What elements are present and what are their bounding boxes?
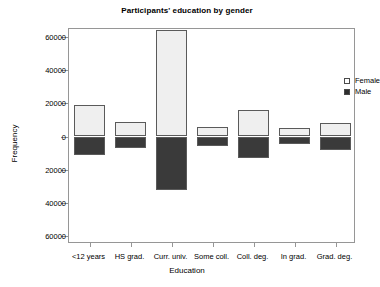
x-axis-tick-label: Coll. deg. (237, 252, 269, 261)
y-axis-tick-label: 60000 (45, 33, 66, 42)
x-axis-tick-label: Some coll. (194, 252, 229, 261)
y-axis-title: Frequency (5, 0, 25, 287)
x-axis-tick-mark (336, 242, 337, 247)
bar-male (74, 137, 105, 156)
bar-female (197, 127, 228, 136)
y-axis-tick-label: 0 (62, 132, 66, 141)
x-axis-tick-label: In grad. (281, 252, 306, 261)
x-axis-tick-mark (295, 242, 296, 247)
x-axis-tick-mark (172, 242, 173, 247)
bar-female (156, 30, 187, 137)
bar-male (238, 137, 269, 158)
bar-male (320, 137, 351, 150)
legend-label-male: Male (355, 86, 371, 97)
bar-female (320, 123, 351, 137)
legend-item-female: Female (344, 75, 380, 86)
x-axis-tick-mark (254, 242, 255, 247)
bar-female (115, 122, 146, 137)
y-axis-tick-label: 40000 (45, 198, 66, 207)
bar-male (279, 137, 310, 145)
chart-legend: Female Male (344, 75, 380, 97)
bar-female (74, 105, 105, 136)
bar-male (115, 137, 146, 148)
x-axis-tick-label: Grad. deg. (317, 252, 352, 261)
open-square-icon (344, 78, 350, 84)
chart-title: Participants' education by gender (0, 6, 374, 15)
x-axis-tick-label: Curr. univ. (154, 252, 188, 261)
x-axis-tick-label: <12 years (72, 252, 105, 261)
bar-male (156, 137, 187, 190)
y-axis-tick-label: 40000 (45, 66, 66, 75)
y-axis-tick-label: 20000 (45, 99, 66, 108)
x-axis-tick-mark (90, 242, 91, 247)
bar-male (197, 137, 228, 146)
y-axis-tick-label: 60000 (45, 231, 66, 240)
plot-area: 6000040000200000200004000060000 Female M… (68, 28, 355, 243)
x-axis-tick-mark (213, 242, 214, 247)
bar-female (279, 128, 310, 136)
y-axis-tick-label: 20000 (45, 165, 66, 174)
filled-square-icon (344, 89, 350, 95)
legend-item-male: Male (344, 86, 380, 97)
x-axis-tick-label: HS grad. (115, 252, 145, 261)
legend-label-female: Female (355, 75, 380, 86)
bar-female (238, 110, 269, 136)
x-axis-title: Education (0, 266, 374, 275)
y-axis-title-text: Frequency (11, 125, 20, 163)
x-axis-tick-mark (131, 242, 132, 247)
